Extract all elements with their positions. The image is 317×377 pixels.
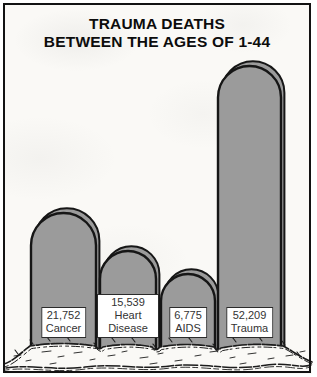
bar-value: 52,209 — [231, 309, 269, 322]
bar-label-aids: 6,775 AIDS — [169, 307, 207, 338]
bar-value: 6,775 — [174, 309, 202, 322]
chart-title: TRAUMA DEATHS BETWEEN THE AGES OF 1-44 — [6, 15, 308, 50]
bar-category: Trauma — [231, 322, 269, 335]
bar-category: Cancer — [46, 322, 81, 335]
bar-category: Heart Disease — [102, 309, 154, 335]
chart-title-line2: BETWEEN THE AGES OF 1-44 — [6, 33, 308, 51]
bar-category: AIDS — [174, 322, 202, 335]
tombstone-chart: TRAUMA DEATHS BETWEEN THE AGES OF 1-44 2… — [0, 0, 317, 377]
bar-value: 21,752 — [46, 309, 81, 322]
chart-title-line1: TRAUMA DEATHS — [6, 15, 308, 33]
bar-label-trauma: 52,209 Trauma — [226, 307, 274, 338]
bar-value: 15,539 — [102, 296, 154, 309]
bar-label-cancer: 21,752 Cancer — [41, 307, 86, 338]
bar-label-heart-disease: 15,539 Heart Disease — [97, 294, 159, 338]
